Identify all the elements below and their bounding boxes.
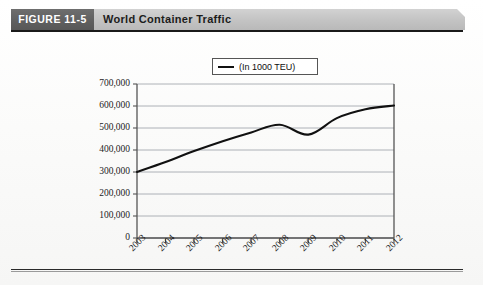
- y-tick-label: 600,000: [70, 100, 130, 110]
- y-tick-label: 0: [70, 232, 130, 242]
- y-tick-label: 300,000: [70, 166, 130, 176]
- y-tick-label: 400,000: [70, 144, 130, 154]
- y-tick-label: 500,000: [70, 122, 130, 132]
- chart-gridlines: [133, 84, 394, 238]
- figure-bottom-rule: [11, 269, 463, 270]
- y-tick-label: 200,000: [70, 188, 130, 198]
- figure-card: FIGURE 11-5 World Container Traffic (In …: [0, 0, 483, 285]
- line-chart-svg: [0, 0, 483, 285]
- figure-bottom-rule-shadow: [11, 271, 463, 272]
- y-tick-label: 700,000: [70, 78, 130, 88]
- y-tick-label: 100,000: [70, 210, 130, 220]
- chart-axes: [137, 84, 394, 238]
- data-series-line: [137, 106, 394, 172]
